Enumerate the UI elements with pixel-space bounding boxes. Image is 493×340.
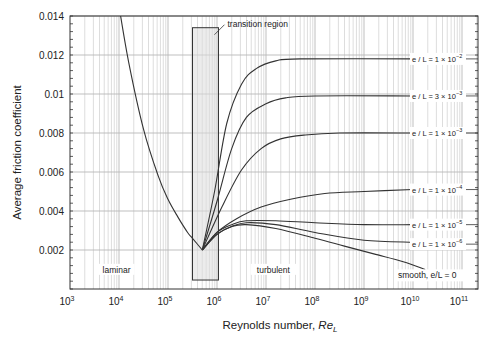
annotation-transition: transition region: [227, 19, 288, 29]
chart-canvas: 0.0020.0040.0060.0080.010.0120.014103104…: [0, 0, 493, 340]
series-label-1: e / L = 1 × 10−2: [412, 53, 462, 64]
x-tick-label: 106: [206, 295, 221, 307]
series-label-4: e / L = 1 × 10−4: [412, 184, 462, 195]
annotation-turbulent: turbulent: [257, 265, 291, 275]
y-tick-label: 0.004: [39, 206, 64, 217]
x-tick-label: 1011: [450, 295, 468, 307]
series-label-5: e / L = 1 × 10−5: [412, 219, 462, 230]
x-tick-label: 1010: [401, 295, 420, 307]
friction-coefficient-chart: 0.0020.0040.0060.0080.010.0120.014103104…: [0, 0, 493, 340]
x-tick-label: 107: [255, 295, 270, 307]
annotation-laminar: laminar: [103, 265, 131, 275]
y-tick-label: 0.006: [39, 167, 64, 178]
x-tick-label: 105: [157, 295, 172, 307]
y-tick-label: 0.012: [39, 50, 64, 61]
series-label-7: smooth, e/L = 0: [398, 270, 457, 280]
series-label-6: e / L = 1 × 10−6: [412, 238, 462, 249]
x-tick-label: 108: [304, 295, 319, 307]
x-tick-label: 103: [59, 295, 74, 307]
series-lines: [119, 6, 425, 269]
series-label-3: e / L = 1 × 10−3: [412, 127, 462, 138]
y-tick-label: 0.002: [39, 245, 64, 256]
y-tick-label: 0.008: [39, 128, 64, 139]
y-tick-label: 0.014: [39, 11, 64, 22]
series-line-7: [202, 225, 425, 270]
x-tick-label: 104: [108, 295, 123, 307]
y-axis-label: Average friction coefficient: [11, 84, 23, 219]
series-label-2: e / L = 3 × 10−3: [412, 90, 462, 101]
x-tick-label: 109: [353, 295, 368, 307]
x-axis-label: Reynolds number, ReL: [222, 319, 337, 334]
y-tick-label: 0.01: [45, 89, 65, 100]
